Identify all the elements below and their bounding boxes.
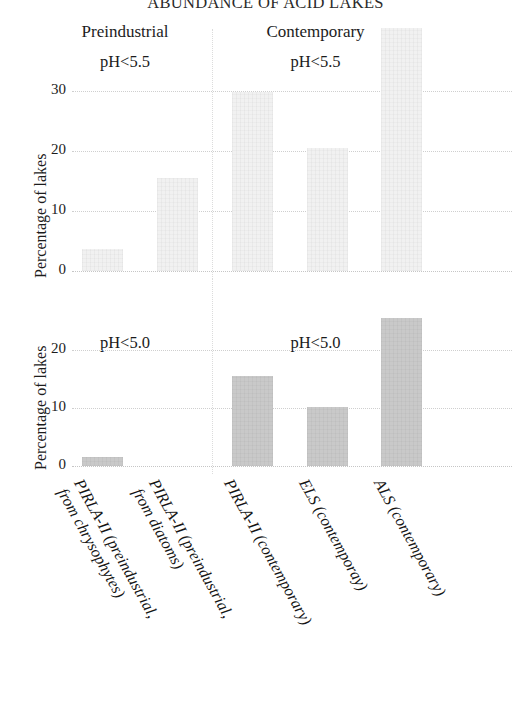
ytick-bot-20: 20 bbox=[51, 340, 66, 357]
y-axis-title-top: Percentage of lakes bbox=[32, 154, 50, 278]
ytick-top-10: 10 bbox=[51, 201, 66, 218]
bar-bottom-pirla2-preind-chrysophytes bbox=[82, 457, 123, 466]
panel-divider-bottom bbox=[212, 279, 213, 474]
xlabel-pirla2-contemporary: PIRLA-II (contemporary) bbox=[219, 476, 315, 629]
bar-bottom-els-contemporary bbox=[307, 407, 348, 466]
ytick-bot-10: 10 bbox=[51, 398, 66, 415]
panel-header-preindustrial: Preindustrial bbox=[40, 22, 210, 42]
bar-top-pirla2-contemporary bbox=[232, 92, 273, 271]
xlabel-line1: PIRLA-II (contemporary) bbox=[219, 476, 315, 629]
xlabel-als-contemporary: ALS (contemporary) bbox=[369, 476, 449, 600]
xlabel-line1: ELS (contemporay) bbox=[294, 476, 371, 594]
y-axis-title-bottom: Percentage of lakes bbox=[32, 346, 50, 470]
bar-top-pirla2-preind-diatoms bbox=[157, 178, 198, 271]
chart-title: ABUNDANCE OF ACID LAKES bbox=[0, 0, 531, 13]
panel-divider-top bbox=[212, 29, 213, 279]
ytick-top-20: 20 bbox=[51, 141, 66, 158]
bar-top-els-contemporary bbox=[307, 148, 348, 271]
gridline-0 bbox=[72, 271, 512, 272]
panel-header-contemporary: Contemporary bbox=[228, 22, 403, 42]
gridline-10 bbox=[72, 211, 512, 212]
bar-bottom-pirla2-contemporary bbox=[232, 376, 273, 466]
gridline-30 bbox=[72, 91, 512, 92]
chart-panel-bottom: 20 10 0 bbox=[72, 321, 531, 466]
ph-label-top-contemporary: pH<5.5 bbox=[228, 52, 403, 72]
bar-top-als-contemporary bbox=[381, 28, 422, 271]
gridline-bot-20 bbox=[72, 350, 512, 351]
gridline-bot-10 bbox=[72, 408, 512, 409]
xlabel-line1: ALS (contemporary) bbox=[369, 476, 449, 600]
plot-area-bottom: 20 10 0 bbox=[72, 321, 531, 466]
chart-panel-top: 30 20 10 0 bbox=[72, 91, 531, 271]
plot-area-top: 30 20 10 0 bbox=[72, 91, 531, 271]
x-axis-tick-labels: PIRLA-II (preindustrial, from chrysophyt… bbox=[0, 466, 531, 705]
bar-bottom-als-contemporary bbox=[381, 318, 422, 466]
bar-top-pirla2-preind-chrysophytes bbox=[82, 249, 123, 271]
gridline-20 bbox=[72, 151, 512, 152]
ytick-top-30: 30 bbox=[51, 81, 66, 98]
ph-label-top-preindustrial: pH<5.5 bbox=[40, 52, 210, 72]
ytick-top-0: 0 bbox=[59, 261, 67, 278]
xlabel-els-contemporary: ELS (contemporay) bbox=[294, 476, 371, 594]
